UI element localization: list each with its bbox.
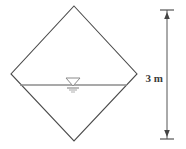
dimension-arrow-top-icon: [164, 12, 170, 19]
height-dimension: 3 m: [146, 10, 174, 139]
diagram-svg: 3 m: [0, 0, 186, 149]
dimension-arrow-bottom-icon: [164, 130, 170, 137]
figure-canvas: 3 m: [0, 0, 186, 149]
dimension-label: 3 m: [146, 72, 163, 84]
diamond-channel-section: [11, 6, 137, 141]
